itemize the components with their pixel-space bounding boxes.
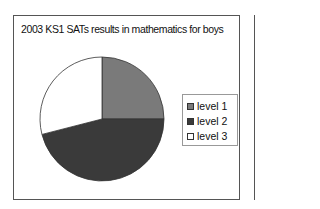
legend-label: level 1 bbox=[197, 100, 227, 112]
legend-label: level 3 bbox=[197, 130, 227, 142]
legend-label: level 2 bbox=[197, 115, 227, 127]
legend-swatch-level-2 bbox=[187, 118, 194, 125]
legend-swatch-level-1 bbox=[187, 103, 194, 110]
legend-swatch-level-3 bbox=[187, 133, 194, 140]
pie-slice-level-1 bbox=[102, 57, 164, 119]
chart-legend: level 1 level 2 level 3 bbox=[182, 94, 238, 146]
legend-item-level-3: level 3 bbox=[187, 129, 227, 143]
legend-item-level-1: level 1 bbox=[187, 99, 227, 113]
legend-item-level-2: level 2 bbox=[187, 114, 227, 128]
